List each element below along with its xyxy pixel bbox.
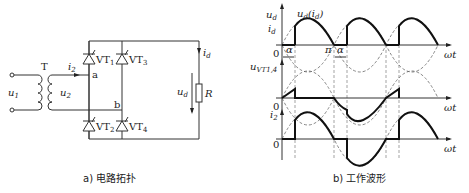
plot1-alpha-2: α: [337, 44, 344, 55]
node-a-label: a: [92, 69, 98, 80]
primary-coil: [38, 75, 42, 110]
vt3-label: VT3: [128, 54, 147, 67]
u1-label: u1: [8, 87, 19, 100]
transformer-label: T: [41, 61, 48, 72]
circuit-topology: T u1 u2 i2 a b VT1 VT3 VT2 VT4: [8, 41, 213, 184]
plot2-x-label: ωt: [444, 102, 457, 113]
plot3-x-arrow-icon: [446, 137, 452, 141]
waveforms: ud id ud(id) 0 α π α ωt uVT1,4 0 ωt i2 0…: [250, 3, 457, 184]
plot1-id-label: id: [268, 23, 276, 36]
vt4-label: VT4: [128, 121, 148, 134]
y-axis3-arrow-icon: [280, 109, 284, 115]
id-label: id: [203, 47, 211, 60]
plot3-origin: 0: [273, 139, 279, 150]
input-terminal-top: [10, 73, 14, 77]
input-terminal-bottom: [10, 108, 14, 112]
i2-label: i2: [68, 61, 76, 74]
plot1-x-arrow-icon: [446, 43, 452, 47]
plot2-y-label: uVT1,4: [250, 61, 277, 74]
plot1-ud-label: ud: [266, 9, 277, 22]
id-arrow-icon: [197, 48, 201, 54]
plot1-negative-dashed: [282, 45, 438, 72]
plot2-x-arrow-icon: [446, 96, 452, 100]
ud-arrow-icon: [190, 108, 194, 114]
plot1-alpha-1: α: [286, 44, 293, 55]
plot1-rectified-dashed: [282, 18, 438, 45]
resistor-icon: [196, 84, 202, 102]
u2-label: u2: [60, 87, 71, 100]
resistor-label: R: [204, 88, 213, 99]
secondary-coil: [48, 75, 52, 110]
caption-circuit: a) 电路拓扑: [83, 172, 136, 184]
ud-label: ud: [177, 86, 188, 99]
plot3-x-label: ωt: [444, 143, 457, 154]
plot1-x-label: ωt: [444, 49, 457, 60]
plot1-ud-curve: [295, 18, 438, 45]
vt1-label: VT1: [95, 54, 114, 67]
plot1-pi-label: π: [324, 44, 332, 55]
diagram-canvas: T u1 u2 i2 a b VT1 VT3 VT2 VT4: [0, 0, 469, 193]
y-axis-arrow-icon: [280, 3, 284, 9]
plot1-origin: 0: [273, 48, 279, 59]
vt2-label: VT2: [95, 121, 114, 134]
node-b-label: b: [114, 99, 120, 110]
y-axis2-arrow-icon: [280, 59, 284, 65]
caption-waveforms: b) 工作波形: [333, 172, 386, 184]
plot2-origin: 0: [273, 101, 279, 112]
